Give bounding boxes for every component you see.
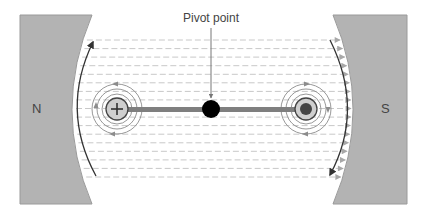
motor-principle-diagram: N S Pivot point [0, 0, 425, 219]
south-pole-label: S [381, 101, 390, 116]
north-magnet [20, 15, 92, 204]
pivot-point [202, 100, 220, 118]
south-magnet [333, 15, 407, 204]
north-pole-label: N [32, 101, 41, 116]
pivot-point-label: Pivot point [183, 11, 240, 25]
right-conductor [295, 98, 317, 120]
left-conductor [106, 98, 128, 120]
rotation-arrow-right-icon [330, 40, 348, 175]
